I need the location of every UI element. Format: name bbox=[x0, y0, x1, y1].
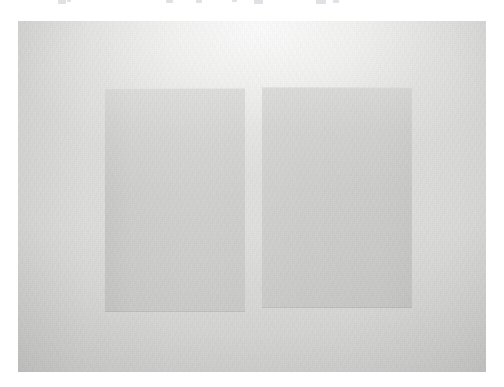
cropped-text-remnants bbox=[0, 0, 504, 9]
glyph-tail bbox=[232, 0, 237, 2]
glyph-tail bbox=[196, 0, 202, 3]
glyph-tail bbox=[254, 0, 263, 4]
glyph-tail bbox=[58, 0, 66, 4]
glyph-tail bbox=[166, 0, 173, 3]
glyph-tail bbox=[67, 0, 71, 2]
glyph-tail bbox=[333, 0, 339, 3]
photo-vignette bbox=[18, 21, 486, 372]
glyph-tail bbox=[316, 0, 326, 4]
photograph-image bbox=[18, 21, 486, 372]
photograph-page bbox=[0, 0, 504, 387]
